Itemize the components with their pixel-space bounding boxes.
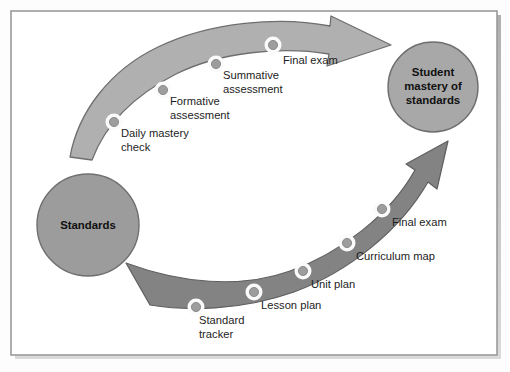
milestone-label-line1: Lesson plan bbox=[261, 299, 321, 311]
node-standards[interactable]: Standards bbox=[37, 174, 139, 276]
student-mastery-label-line3: standards bbox=[406, 94, 460, 106]
milestone-dot[interactable] bbox=[298, 266, 307, 275]
student-mastery-label-line2: mastery of bbox=[404, 80, 462, 92]
milestone-dot[interactable] bbox=[191, 302, 200, 311]
milestone-dot[interactable] bbox=[342, 238, 351, 247]
milestone-label-line1: Standard bbox=[199, 314, 244, 326]
diagram-canvas: Standards Student mastery of standards D… bbox=[0, 0, 510, 372]
milestone-dot[interactable] bbox=[109, 117, 118, 126]
milestone-label-line2: assessment bbox=[223, 83, 284, 95]
milestone-label-line2: check bbox=[121, 141, 151, 153]
standards-label: Standards bbox=[60, 219, 116, 231]
milestone-label-line1: Unit plan bbox=[311, 278, 355, 290]
milestone-dot[interactable] bbox=[158, 85, 167, 94]
milestone-dot[interactable] bbox=[249, 287, 258, 296]
milestone-dot[interactable] bbox=[211, 59, 220, 68]
milestone-label-line2: assessment bbox=[170, 109, 231, 121]
student-mastery-label-line1: Student bbox=[412, 66, 455, 78]
milestone-label-line2: tracker bbox=[199, 328, 233, 340]
milestone-label-line1: Daily mastery bbox=[121, 127, 189, 139]
milestone-label-line1: Formative bbox=[170, 95, 220, 107]
diagram-svg: Standards Student mastery of standards D… bbox=[0, 0, 510, 372]
node-student-mastery[interactable]: Student mastery of standards bbox=[388, 42, 478, 132]
milestone-label-line1: Final exam bbox=[283, 54, 338, 66]
milestone-label-line1: Curriculum map bbox=[356, 250, 435, 262]
milestone-dot[interactable] bbox=[268, 40, 277, 49]
milestone-label-line1: Summative bbox=[223, 69, 279, 81]
milestone-dot[interactable] bbox=[377, 204, 386, 213]
milestone-label-line1: Final exam bbox=[392, 216, 447, 228]
